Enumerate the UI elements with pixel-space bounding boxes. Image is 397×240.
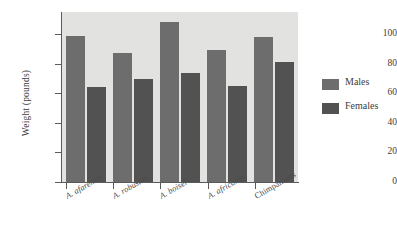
bar-males-1 <box>113 53 132 182</box>
x-tick-mark <box>208 183 209 189</box>
bar-males-2 <box>160 22 179 182</box>
legend-label: Females <box>345 100 378 111</box>
legend-label: Males <box>345 76 369 87</box>
bar-females-0 <box>87 87 106 182</box>
bar-males-4 <box>254 37 273 182</box>
x-tick-mark <box>255 183 256 189</box>
bar-males-0 <box>66 36 85 182</box>
bar-males-3 <box>207 50 226 182</box>
y-tick-label: 0 <box>363 177 397 187</box>
plot-area <box>62 12 298 182</box>
female-swatch <box>322 103 339 114</box>
bar-chart-figure: Weight (pounds) 020406080100 A. afarensi… <box>0 0 397 240</box>
x-tick-mark <box>113 183 114 189</box>
y-tick-label: 60 <box>363 88 397 98</box>
bar-females-2 <box>181 73 200 182</box>
bar-females-4 <box>275 62 294 182</box>
y-tick-label: 100 <box>363 29 397 39</box>
bar-females-1 <box>134 79 153 182</box>
y-tick-label: 20 <box>363 147 397 157</box>
y-axis-title: Weight (pounds) <box>21 33 31 173</box>
male-swatch <box>322 79 339 90</box>
y-tick-label: 40 <box>363 118 397 128</box>
y-axis-line <box>61 12 62 183</box>
x-tick-mark <box>160 183 161 189</box>
x-tick-mark <box>66 183 67 189</box>
bar-females-3 <box>228 86 247 182</box>
y-tick-label: 80 <box>363 59 397 69</box>
